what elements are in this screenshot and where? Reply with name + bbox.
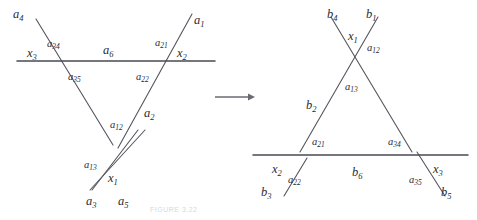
node-label-x3: x3 xyxy=(27,47,37,60)
node-label-b1: b1 xyxy=(366,8,377,21)
node-label-a34: a34 xyxy=(388,137,401,148)
node-label-a2: a2 xyxy=(144,107,155,120)
node-label-a12: a12 xyxy=(367,43,380,54)
node-label-x2: x2 xyxy=(272,163,282,176)
node-label-a5: a5 xyxy=(118,195,129,208)
edge-b1-a21 xyxy=(300,17,378,152)
edge-b4-a34 xyxy=(331,17,412,152)
node-label-b5: b5 xyxy=(441,186,452,199)
node-label-a3: a3 xyxy=(86,195,97,208)
arrow-head xyxy=(248,94,255,101)
node-label-a4: a4 xyxy=(13,8,24,21)
node-label-b3: b3 xyxy=(261,186,272,199)
node-label-x3: x3 xyxy=(433,163,443,176)
node-label-a35: a35 xyxy=(68,72,81,83)
node-label-x2: x2 xyxy=(177,47,187,60)
node-label-a35: a35 xyxy=(409,175,422,186)
node-label-a6: a6 xyxy=(103,44,114,57)
figure-line-art xyxy=(0,0,477,220)
node-label-a13: a13 xyxy=(84,160,97,171)
node-label-a13: a13 xyxy=(345,82,358,93)
node-label-b6: b6 xyxy=(352,166,363,179)
transform-arrow-icon xyxy=(215,94,255,101)
node-label-b2: b2 xyxy=(306,99,317,112)
node-label-a12: a12 xyxy=(110,120,123,131)
figure-caption: FIGURE 3.22 xyxy=(150,206,198,213)
node-label-a22: a22 xyxy=(288,175,301,186)
node-label-x1: x1 xyxy=(348,30,358,43)
node-label-a21: a21 xyxy=(312,137,325,148)
edge-a1-a2 xyxy=(118,14,192,148)
figure-container: a4a34x3a6a21a1x2a35a22a2a12a13x1a3a5 b4b… xyxy=(0,0,477,220)
node-label-b4: b4 xyxy=(327,8,338,21)
node-label-a21: a21 xyxy=(155,38,168,49)
node-label-a1: a1 xyxy=(194,14,205,27)
node-label-a34: a34 xyxy=(47,39,60,50)
node-label-a22: a22 xyxy=(136,72,149,83)
node-label-x1: x1 xyxy=(108,172,118,185)
